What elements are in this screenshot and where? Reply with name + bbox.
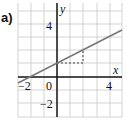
y-axis-label: y: [59, 2, 66, 16]
tick-x-0: 0: [46, 79, 52, 93]
x-axis-label: x: [112, 63, 119, 77]
grid: [18, 3, 122, 117]
tick-y-neg2: −2: [40, 97, 53, 111]
tick-x-4: 4: [106, 79, 112, 93]
tick-y-4: 4: [46, 19, 52, 33]
tick-x-neg2: −2: [18, 79, 31, 93]
coordinate-graph: y x 4 −2 −2 0 4: [0, 0, 127, 124]
